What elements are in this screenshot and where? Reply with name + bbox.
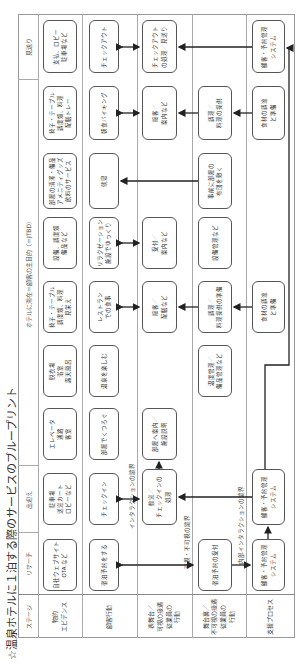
row-divider bbox=[246, 14, 247, 638]
stage-header-arrival: 出迎え bbox=[18, 466, 38, 533]
frontstage-box: チェックアウト の処理／見送り bbox=[142, 20, 177, 73]
stage-header-research: リサーチ bbox=[18, 533, 38, 595]
physical-box: 椅子・テーブル 調度類、料理 見栄え bbox=[43, 281, 77, 333]
backstage-box: 調理／ 料理の提供 bbox=[198, 86, 232, 140]
physical-box: エレベータ 通路 客室 bbox=[43, 408, 77, 460]
customer-action-box: チェックアウト bbox=[89, 20, 119, 73]
stage-header-label: ステージ bbox=[18, 595, 38, 638]
stage-header-stay: ホテルに滞在＝顧客の主目的（＝JTBD） bbox=[18, 80, 38, 466]
support-box: 顧客・予約管理 システム bbox=[252, 539, 285, 591]
row-divider bbox=[192, 14, 193, 638]
row-label-support: 支援プロセス bbox=[246, 595, 295, 638]
support-box: 顧客・予約管理 システム bbox=[252, 469, 285, 525]
support-box: 食材の調達 と準備 bbox=[252, 86, 285, 140]
row-label-physical: 物的 エビデンス bbox=[38, 595, 82, 638]
frontstage-box: 歓迎／ チェックインの 処理 bbox=[142, 469, 177, 525]
row-divider bbox=[38, 14, 39, 638]
customer-action-box: チェックイン bbox=[89, 473, 119, 525]
row-divider bbox=[137, 14, 138, 638]
interaction-boundary-label: インタラクションの境界 bbox=[128, 463, 136, 529]
backstage-box: 調理／ 料理提供の準備 bbox=[198, 281, 232, 333]
support-box: 食材の調達 と準備 bbox=[252, 281, 285, 333]
visibility-boundary-label: 可視・不可視の境界 bbox=[183, 515, 191, 569]
physical-box: 椅子・テーブル 調度類、料理 配膳トレー bbox=[43, 86, 77, 140]
physical-box: 設備、調度類 備品など bbox=[43, 217, 77, 269]
customer-action-box: 温泉を楽しむ bbox=[89, 345, 119, 397]
customer-action-box: リラクゼーション 施設でゆっくり bbox=[89, 217, 119, 269]
page-title: ☆温泉ホテルに１泊する際のサービスのブループリント bbox=[3, 387, 19, 660]
frontstage-box: 接客／ 配膳など bbox=[142, 281, 177, 333]
stage-header-departure: 見送り bbox=[18, 14, 38, 80]
row-label-backstage: 舞台裏／ 不可視の接遇 従業員の 行動 bbox=[192, 595, 246, 638]
customer-action-box: 宿泊予約をする bbox=[89, 539, 119, 591]
physical-box: 部屋の清潔・備品 アメニティグッズ 飲料のサービス bbox=[43, 153, 77, 209]
customer-action-box: 就寝 bbox=[89, 153, 119, 209]
backstage-box: 設備管理など bbox=[198, 217, 232, 269]
support-box: 顧客・予約管理 システム bbox=[252, 20, 285, 73]
customer-action-box: 朝食バイキング bbox=[89, 86, 119, 140]
backstage-box: 宿泊予約の受付 bbox=[198, 539, 232, 591]
physical-box: 支払、ロビー 駐車場など bbox=[43, 20, 77, 73]
customer-action-box: 部屋でくつろぐ bbox=[89, 408, 119, 460]
row-label-customer: 顧客行動 bbox=[82, 595, 137, 638]
customer-action-box: レストラン での食事 bbox=[89, 281, 119, 333]
row-label-frontstage: 表舞台／ 可視の接遇 従業員の 行動 bbox=[137, 595, 192, 638]
backstage-box: 事前に部屋の 布団を敷く bbox=[198, 153, 232, 209]
frontstage-box: 受付／ 案内など bbox=[142, 217, 177, 269]
physical-box: 自社ウェブサイト OTA など bbox=[43, 539, 77, 591]
backstage-box: 温度管理／ 備品管理など bbox=[198, 345, 232, 397]
row-divider bbox=[82, 14, 83, 638]
physical-box: 駐車場 送迎カート ロビーなど bbox=[43, 473, 77, 525]
frontstage-box: 部屋へ案内／ 施設説明 bbox=[142, 408, 177, 460]
frontstage-box: 接客／ 案内など bbox=[142, 86, 177, 140]
service-blueprint: ☆温泉ホテルに１泊する際のサービスのブループリント ステージ リサーチ 出迎え … bbox=[0, 0, 298, 669]
internal-boundary-label: 内部インタラクションの境界 bbox=[237, 486, 245, 564]
physical-box: 脱衣場 浴室 露天風呂 bbox=[43, 345, 77, 397]
